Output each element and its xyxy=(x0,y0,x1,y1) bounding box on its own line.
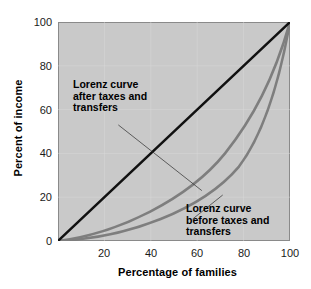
annotation-before-taxes: Lorenz curve before taxes and transfers xyxy=(186,203,269,238)
y-tick-label-0: 0 xyxy=(18,235,52,247)
x-tick-label-80: 80 xyxy=(229,247,259,259)
x-tick-label-40: 40 xyxy=(136,247,166,259)
x-tick-label-100: 100 xyxy=(275,247,305,259)
lorenz-curve-figure: 100 80 60 40 20 0 20 40 60 80 100 xyxy=(0,0,311,289)
x-tick-label-20: 20 xyxy=(89,247,119,259)
leader-line-after-taxes xyxy=(118,125,202,191)
y-tick-label-100: 100 xyxy=(18,16,52,28)
annotation-after-taxes: Lorenz curve after taxes and transfers xyxy=(73,79,147,114)
x-tick-label-60: 60 xyxy=(182,247,212,259)
x-axis-title: Percentage of families xyxy=(0,266,311,278)
y-axis-title: Percent of income xyxy=(12,58,24,198)
